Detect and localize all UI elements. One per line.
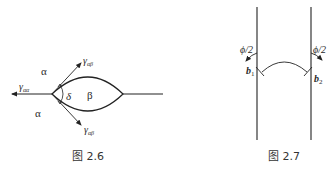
label-beta: β — [87, 89, 93, 101]
caption-figure-2-7: 图 2.7 — [268, 150, 300, 163]
label-alpha-top: α — [41, 65, 47, 77]
label-alpha-bottom: α — [35, 107, 41, 119]
caption-figure-2-6: 图 2.6 — [72, 150, 104, 163]
label-gamma-ab-top: γαβ — [83, 55, 93, 67]
label-delta: δ — [66, 90, 72, 102]
figure-2-6: α α β δ γαα γαβ γαβ 图 2.6 — [12, 55, 163, 163]
label-b2: b2 — [314, 73, 323, 86]
label-b1: b1 — [246, 65, 255, 78]
label-gamma-ab-bottom: γαβ — [84, 124, 94, 136]
figure-2-7: ϕ/2 ϕ/2 b1 b2 图 2.7 — [240, 7, 326, 163]
label-phi-left: ϕ/2 — [240, 44, 253, 55]
figure-canvas: α α β δ γαα γαβ γαβ 图 2.6 ϕ/2 ϕ/2 b1 — [0, 0, 335, 172]
label-gamma-aa: γαα — [19, 81, 30, 93]
misorientation-arc — [262, 62, 307, 72]
delta-angle-arc — [60, 85, 63, 103]
label-phi-right: ϕ/2 — [313, 44, 326, 55]
